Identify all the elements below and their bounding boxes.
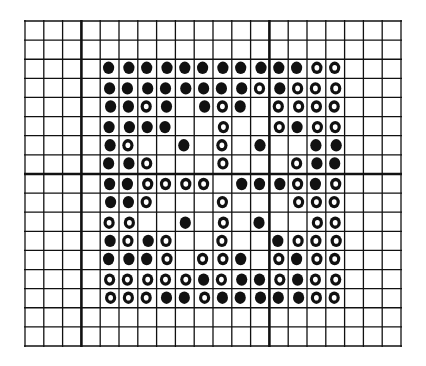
ring-dot-center xyxy=(333,277,338,283)
dot xyxy=(179,292,190,304)
dot xyxy=(255,292,266,304)
dot xyxy=(142,121,153,133)
ring-dot-center xyxy=(296,104,301,110)
ring-dot-center xyxy=(277,124,282,130)
ring-dot-center xyxy=(220,104,225,110)
dot xyxy=(124,121,135,133)
ring-dot-center xyxy=(163,277,168,283)
dot xyxy=(236,82,247,94)
ring-dot-center xyxy=(220,199,225,205)
dot xyxy=(217,292,228,304)
dot xyxy=(123,62,134,74)
dot xyxy=(253,217,264,229)
ring-dot-center xyxy=(333,181,338,187)
dot xyxy=(236,178,247,190)
ring-dot-center xyxy=(221,124,226,130)
dot xyxy=(235,253,246,265)
dot xyxy=(272,235,283,247)
ring-dot-center xyxy=(276,256,281,262)
ring-dot-center xyxy=(296,238,301,244)
ring-dot-center xyxy=(334,238,339,244)
ring-dot-center xyxy=(277,277,282,283)
ring-dot-center xyxy=(333,124,338,130)
ring-dot-center xyxy=(108,295,113,301)
dot xyxy=(103,157,114,169)
dot xyxy=(105,235,116,247)
dot xyxy=(161,62,172,74)
dot xyxy=(236,273,247,285)
ring-dot-center xyxy=(332,199,337,205)
dot xyxy=(331,139,342,151)
dot xyxy=(105,139,116,151)
dot xyxy=(235,62,246,74)
ring-dot-center xyxy=(163,181,168,187)
dot xyxy=(180,217,191,229)
dot xyxy=(216,82,227,94)
ring-dot-center xyxy=(183,277,188,283)
dot xyxy=(123,157,134,169)
dot xyxy=(198,82,209,94)
ring-dot-center xyxy=(296,199,301,205)
ring-dot-center xyxy=(295,181,300,187)
ring-dot-center xyxy=(313,86,318,92)
dot xyxy=(123,253,134,265)
ring-dot-center xyxy=(315,65,320,71)
ring-dot-center xyxy=(221,256,226,262)
dot xyxy=(161,292,172,304)
dot xyxy=(103,62,114,74)
ring-dot-center xyxy=(107,220,112,226)
ring-dot-center xyxy=(164,238,169,244)
dot xyxy=(123,100,134,112)
dot xyxy=(254,178,265,190)
dot xyxy=(273,62,284,74)
dot xyxy=(103,253,114,265)
dot xyxy=(292,273,303,285)
ring-dot-center xyxy=(202,295,207,301)
dot xyxy=(199,100,210,112)
dot xyxy=(254,139,265,151)
dot xyxy=(291,62,302,74)
ring-dot-center xyxy=(276,104,281,110)
dot xyxy=(142,82,153,94)
dot xyxy=(274,82,285,94)
ring-dot-center xyxy=(144,199,149,205)
dot xyxy=(160,82,171,94)
dot xyxy=(179,62,190,74)
dot xyxy=(310,139,321,151)
dot xyxy=(159,121,170,133)
ring-dot-center xyxy=(220,143,225,149)
dot xyxy=(141,253,152,265)
ring-dot-center xyxy=(127,220,132,226)
dot xyxy=(254,273,265,285)
ring-dot-center xyxy=(314,199,319,205)
dot xyxy=(291,253,302,265)
ring-dot-center xyxy=(183,181,188,187)
ring-dot-center xyxy=(314,295,319,301)
ring-dot-center xyxy=(314,238,319,244)
ring-dot-center xyxy=(144,104,149,110)
ring-dot-center xyxy=(332,65,337,71)
ring-dot-center xyxy=(315,256,320,262)
dot xyxy=(105,196,116,208)
dot xyxy=(235,292,246,304)
dot xyxy=(310,178,321,190)
dot xyxy=(104,121,115,133)
ring-dot-center xyxy=(315,124,320,130)
ring-dot-center xyxy=(144,161,149,167)
ring-dot-center xyxy=(313,277,318,283)
dot xyxy=(178,139,189,151)
ring-dot-center xyxy=(200,256,205,262)
dot-grid-figure xyxy=(0,0,426,366)
ring-dot-center xyxy=(333,86,338,92)
ring-dot-center xyxy=(332,256,337,262)
ring-dot-center xyxy=(220,238,225,244)
ring-dot-center xyxy=(126,295,131,301)
ring-dot-center xyxy=(107,277,112,283)
dot xyxy=(122,178,133,190)
dot xyxy=(292,121,303,133)
dot xyxy=(235,100,246,112)
dot xyxy=(255,62,266,74)
ring-dot-center xyxy=(144,295,149,301)
dot xyxy=(274,178,285,190)
ring-dot-center xyxy=(333,220,338,226)
